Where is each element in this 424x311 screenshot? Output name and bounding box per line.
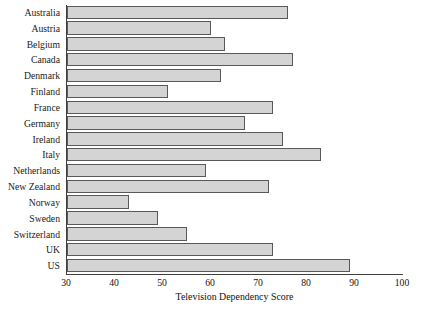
- category-label-uk: UK: [0, 242, 60, 258]
- television-dependency-bar-chart: AustraliaAustriaBelgiumCanadaDenmarkFinl…: [0, 0, 424, 311]
- bar-row: [67, 163, 403, 179]
- bar-row: [67, 21, 403, 37]
- category-label-belgium: Belgium: [0, 37, 60, 53]
- bar-row: [67, 84, 403, 100]
- x-tick-40: 40: [94, 277, 134, 288]
- category-label-canada: Canada: [0, 52, 60, 68]
- bar-sweden: [67, 211, 158, 224]
- category-label-finland: Finland: [0, 84, 60, 100]
- bar-row: [67, 211, 403, 227]
- category-label-new-zealand: New Zealand: [0, 179, 60, 195]
- x-tick-50: 50: [142, 277, 182, 288]
- category-label-switzerland: Switzerland: [0, 227, 60, 243]
- bar-australia: [67, 6, 288, 19]
- bar-row: [67, 37, 403, 53]
- category-label-denmark: Denmark: [0, 68, 60, 84]
- bar-row: [67, 195, 403, 211]
- bar-new-zealand: [67, 180, 269, 193]
- bar-belgium: [67, 37, 225, 50]
- category-label-australia: Australia: [0, 5, 60, 21]
- bar-row: [67, 227, 403, 243]
- bar-italy: [67, 148, 321, 161]
- x-tick-30: 30: [46, 277, 86, 288]
- bar-row: [67, 52, 403, 68]
- bar-finland: [67, 85, 168, 98]
- bar-row: [67, 132, 403, 148]
- bar-netherlands: [67, 164, 206, 177]
- bar-row: [67, 100, 403, 116]
- category-label-norway: Norway: [0, 195, 60, 211]
- category-label-ireland: Ireland: [0, 132, 60, 148]
- bar-france: [67, 101, 273, 114]
- category-label-france: France: [0, 100, 60, 116]
- value-axis-title: Television Dependency Score: [66, 291, 403, 302]
- bar-denmark: [67, 69, 221, 82]
- value-axis-line: [66, 274, 403, 275]
- bar-us: [67, 259, 350, 272]
- x-tick-90: 90: [334, 277, 374, 288]
- bar-row: [67, 116, 403, 132]
- bar-canada: [67, 53, 293, 66]
- bar-row: [67, 147, 403, 163]
- bar-norway: [67, 195, 129, 208]
- x-tick-60: 60: [190, 277, 230, 288]
- bar-row: [67, 179, 403, 195]
- category-label-austria: Austria: [0, 21, 60, 37]
- bar-row: [67, 68, 403, 84]
- category-label-netherlands: Netherlands: [0, 163, 60, 179]
- category-axis-labels: AustraliaAustriaBelgiumCanadaDenmarkFinl…: [0, 5, 62, 274]
- bar-row: [67, 242, 403, 258]
- category-label-italy: Italy: [0, 147, 60, 163]
- bar-ireland: [67, 132, 283, 145]
- category-label-us: US: [0, 258, 60, 274]
- x-tick-100: 100: [382, 277, 422, 288]
- x-tick-70: 70: [238, 277, 278, 288]
- bar-austria: [67, 21, 211, 34]
- category-label-sweden: Sweden: [0, 211, 60, 227]
- bar-uk: [67, 243, 273, 256]
- bar-switzerland: [67, 227, 187, 240]
- x-tick-80: 80: [286, 277, 326, 288]
- bar-row: [67, 258, 403, 274]
- bar-row: [67, 5, 403, 21]
- bar-germany: [67, 116, 245, 129]
- category-label-germany: Germany: [0, 116, 60, 132]
- plot-area: [66, 5, 403, 274]
